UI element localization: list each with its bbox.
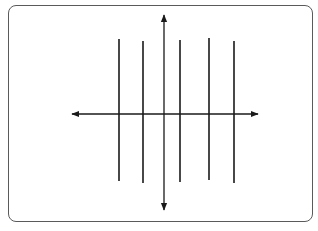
vertical-lines-group [119, 38, 234, 183]
coordinate-plane [0, 0, 318, 231]
